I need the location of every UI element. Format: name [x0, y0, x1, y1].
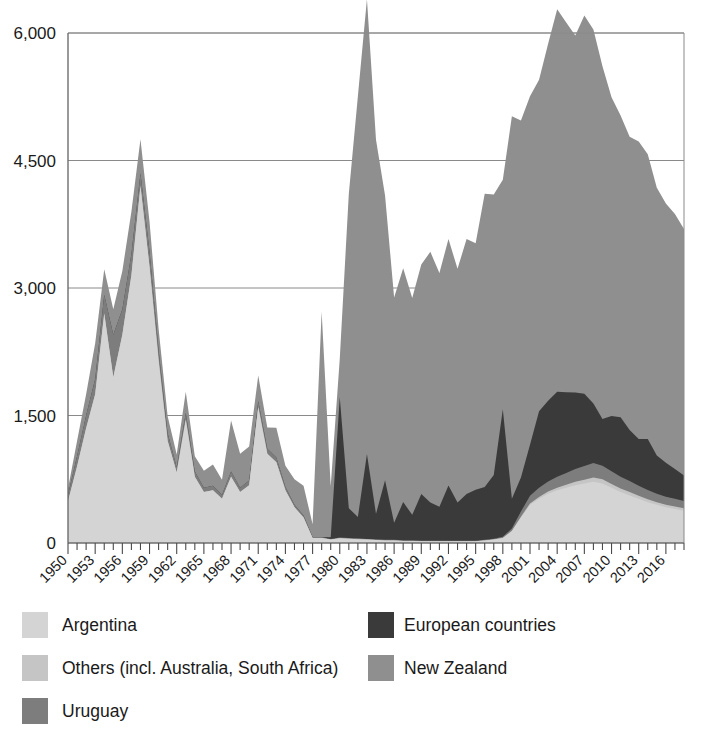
x-axis-tick-label: 2001	[498, 552, 532, 586]
x-axis-ticks	[68, 543, 684, 554]
legend-swatch-uruguay	[22, 698, 48, 724]
chart-legend: ArgentinaOthers (incl. Australia, South …	[22, 612, 556, 724]
legend-swatch-european-countries	[368, 612, 394, 638]
legend-label-uruguay: Uruguay	[62, 701, 128, 721]
x-axis-tick-label: 1959	[118, 552, 152, 586]
legend-label-european-countries: European countries	[404, 615, 556, 635]
y-axis-tick-label: 3,000	[13, 279, 56, 298]
x-axis-tick-label: 1989	[389, 552, 423, 586]
plot-areas	[68, 0, 684, 543]
x-axis-tick-label: 1956	[90, 552, 124, 586]
x-axis-tick-labels: 1950195319561959196219651968197119741977…	[36, 552, 668, 586]
x-axis-tick-label: 1986	[362, 552, 396, 586]
x-axis-tick-label: 2004	[525, 552, 559, 586]
x-axis-tick-label: 2013	[607, 552, 641, 586]
y-axis-tick-label: 6,000	[13, 24, 56, 43]
x-axis-tick-label: 1995	[444, 552, 478, 586]
x-axis-tick-label: 1971	[226, 552, 260, 586]
x-axis-tick-label: 1950	[36, 552, 70, 586]
y-axis-tick-label: 0	[47, 534, 56, 553]
x-axis-tick-label: 1998	[471, 552, 505, 586]
x-axis-tick-label: 2010	[580, 552, 614, 586]
chart-container: 01,5003,0004,5006,000 195019531956195919…	[0, 0, 706, 748]
y-axis-tick-labels: 01,5003,0004,5006,000	[13, 24, 56, 553]
x-axis-tick-label: 2016	[634, 552, 668, 586]
x-axis-tick-label: 2007	[552, 552, 586, 586]
legend-label-others-incl-australia-south-africa: Others (incl. Australia, South Africa)	[62, 658, 338, 678]
x-axis-tick-label: 1977	[281, 552, 315, 586]
legend-swatch-argentina	[22, 612, 48, 638]
stacked-area-chart: 01,5003,0004,5006,000 195019531956195919…	[0, 0, 706, 748]
legend-swatch-new-zealand	[368, 655, 394, 681]
x-axis-tick-label: 1992	[416, 552, 450, 586]
x-axis-tick-label: 1980	[308, 552, 342, 586]
legend-label-new-zealand: New Zealand	[404, 658, 507, 678]
y-axis-tick-label: 1,500	[13, 407, 56, 426]
x-axis-tick-label: 1965	[172, 552, 206, 586]
x-axis-tick-label: 1983	[335, 552, 369, 586]
legend-label-argentina: Argentina	[62, 615, 137, 635]
legend-swatch-others-incl-australia-south-africa	[22, 655, 48, 681]
y-axis-tick-label: 4,500	[13, 152, 56, 171]
x-axis-tick-label: 1974	[253, 552, 287, 586]
x-axis-tick-label: 1953	[63, 552, 97, 586]
x-axis-tick-label: 1968	[199, 552, 233, 586]
x-axis-tick-label: 1962	[145, 552, 179, 586]
